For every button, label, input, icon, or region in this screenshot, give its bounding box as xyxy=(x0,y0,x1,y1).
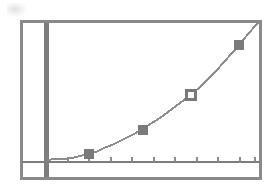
graph-canvas xyxy=(0,0,279,195)
data-point-marker-2 xyxy=(139,126,148,135)
data-point-marker-1 xyxy=(85,150,94,159)
data-point-markers xyxy=(85,41,244,159)
data-point-marker-3 xyxy=(187,91,196,100)
exponential-curve xyxy=(47,21,261,160)
calculator-screenshot xyxy=(0,0,279,195)
screen-frame xyxy=(22,22,261,179)
data-point-marker-4 xyxy=(235,41,244,50)
